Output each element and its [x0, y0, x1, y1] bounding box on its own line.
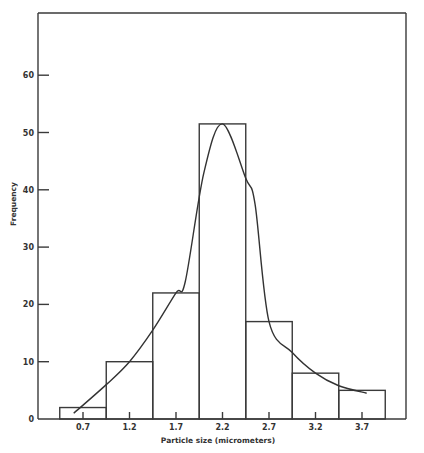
x-tick-label: 2.7 — [262, 423, 276, 432]
histogram-bar — [106, 362, 153, 419]
histogram-bars — [60, 124, 386, 419]
y-tick-label: 40 — [23, 186, 35, 195]
histogram-chart: 0102030405060 0.71.21.72.22.73.23.7 Part… — [0, 0, 424, 453]
x-tick-label: 1.7 — [169, 423, 183, 432]
y-axis-title: Frequency — [9, 182, 18, 226]
x-tick-label: 3.2 — [308, 423, 322, 432]
y-tick-label: 30 — [23, 243, 35, 252]
x-tick-label: 2.2 — [215, 423, 229, 432]
y-tick-label: 10 — [23, 358, 35, 367]
histogram-bar — [246, 322, 293, 419]
y-tick-label: 50 — [23, 129, 35, 138]
plot-frame — [38, 13, 406, 419]
y-tick-label: 60 — [23, 71, 35, 80]
x-axis-ticks: 0.71.21.72.22.73.23.7 — [76, 412, 369, 432]
x-axis-title: Particle size (micrometers) — [161, 436, 275, 445]
fitted-curve — [74, 124, 367, 413]
x-tick-label: 1.2 — [122, 423, 136, 432]
y-axis-ticks: 0102030405060 — [23, 71, 49, 424]
y-tick-label: 0 — [28, 415, 34, 424]
histogram-bar — [153, 293, 200, 419]
y-tick-label: 20 — [23, 300, 35, 309]
x-tick-label: 3.7 — [355, 423, 369, 432]
histogram-bar — [199, 124, 246, 419]
x-tick-label: 0.7 — [76, 423, 90, 432]
